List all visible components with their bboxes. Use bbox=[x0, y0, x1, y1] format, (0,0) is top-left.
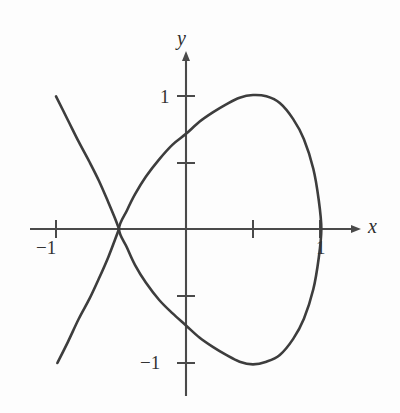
y-axis-label: y bbox=[177, 28, 186, 48]
plot-figure: −1 1 1 −1 x y bbox=[0, 0, 400, 413]
x-axis-tick-label-neg1: −1 bbox=[36, 238, 56, 257]
curve-lower-left-branch bbox=[57, 229, 119, 363]
y-axis-tick-label-1: 1 bbox=[160, 87, 170, 106]
x-axis-tick-label-1: 1 bbox=[316, 238, 326, 257]
curve-upper-left-branch bbox=[56, 96, 119, 229]
y-axis-tick-label-neg1: −1 bbox=[140, 353, 160, 372]
x-axis-label: x bbox=[368, 216, 377, 236]
curve-plot-svg bbox=[0, 0, 400, 413]
